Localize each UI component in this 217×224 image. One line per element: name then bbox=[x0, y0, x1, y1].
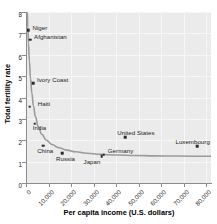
x-tick-label: 10,000 bbox=[37, 189, 55, 207]
x-axis-title: Per capita income (U.S. dollars) bbox=[26, 209, 212, 216]
y-tick-mark bbox=[22, 76, 26, 77]
data-point-label: India bbox=[33, 125, 46, 131]
x-tick-mark bbox=[49, 183, 50, 187]
data-point-label: Luxembourg bbox=[175, 139, 209, 145]
data-point[interactable] bbox=[124, 136, 127, 139]
x-tick-mark bbox=[139, 183, 140, 187]
data-point-label: Ivory Coast bbox=[37, 77, 68, 83]
data-point[interactable] bbox=[29, 38, 32, 41]
data-point[interactable] bbox=[29, 105, 32, 108]
x-tick-label: 50,000 bbox=[127, 189, 145, 207]
x-tick-mark bbox=[71, 183, 72, 187]
x-tick-mark bbox=[116, 183, 117, 187]
x-tick-label: 30,000 bbox=[82, 189, 100, 207]
data-point[interactable] bbox=[27, 29, 30, 32]
data-point[interactable] bbox=[61, 152, 64, 155]
y-tick-label: 1 bbox=[2, 162, 22, 168]
x-tick-mark bbox=[161, 183, 162, 187]
data-point-label: Russia bbox=[56, 156, 75, 162]
y-axis-title: Total fertility rate bbox=[4, 34, 11, 154]
x-tick-label: 0 bbox=[26, 189, 33, 196]
y-tick-mark bbox=[22, 140, 26, 141]
y-tick-mark bbox=[22, 98, 26, 99]
data-point-label: Afghanistan bbox=[34, 34, 67, 40]
y-tick-mark bbox=[22, 162, 26, 163]
data-point-label: Haiti bbox=[38, 101, 50, 107]
y-tick-label: 0 bbox=[2, 183, 22, 189]
data-point-label: Germany bbox=[108, 148, 133, 154]
x-tick-mark bbox=[94, 183, 95, 187]
x-tick-label: 20,000 bbox=[59, 189, 77, 207]
data-point[interactable] bbox=[103, 153, 106, 156]
plot-area: NigerAfghanistanIvory CoastHaitiIndiaChi… bbox=[26, 12, 211, 183]
data-point-label: Niger bbox=[32, 25, 47, 31]
fertility-vs-income-chart: NigerAfghanistanIvory CoastHaitiIndiaChi… bbox=[0, 0, 217, 224]
y-tick-mark bbox=[22, 33, 26, 34]
data-point[interactable] bbox=[32, 82, 35, 85]
y-tick-mark bbox=[22, 119, 26, 120]
y-tick-mark bbox=[22, 12, 26, 13]
x-tick-mark bbox=[184, 183, 185, 187]
data-point-label: Japan bbox=[84, 159, 101, 165]
data-point-label: United States bbox=[117, 130, 154, 136]
data-point-label: China bbox=[37, 148, 53, 154]
x-tick-label: 80,000 bbox=[195, 189, 213, 207]
data-point[interactable] bbox=[196, 145, 199, 148]
x-tick-label: 40,000 bbox=[105, 189, 123, 207]
x-tick-mark bbox=[26, 183, 27, 187]
y-tick-mark bbox=[22, 55, 26, 56]
y-axis-line bbox=[26, 12, 27, 184]
x-tick-label: 60,000 bbox=[150, 189, 168, 207]
y-tick-label: 8 bbox=[2, 12, 22, 18]
x-tick-mark bbox=[206, 183, 207, 187]
x-tick-label: 70,000 bbox=[172, 189, 190, 207]
